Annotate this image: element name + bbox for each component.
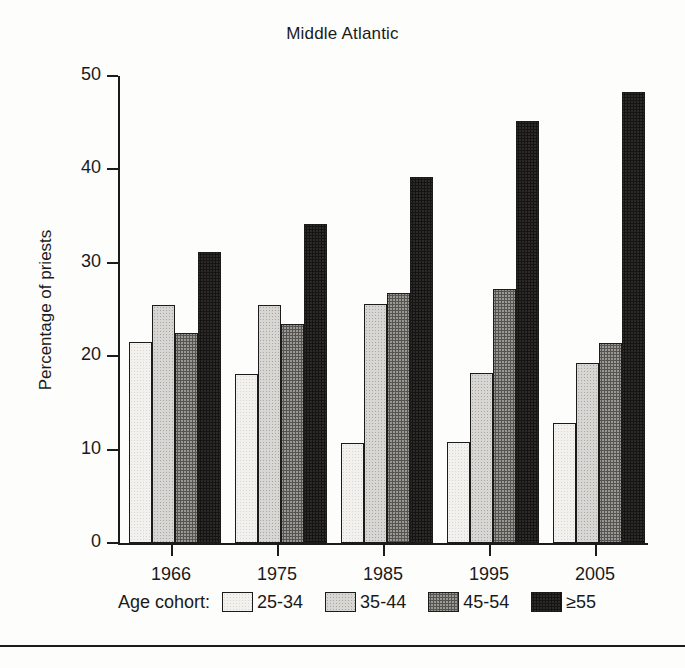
bar-1995-35-44: [470, 373, 493, 543]
x-tick-label-1995: 1995: [469, 564, 509, 585]
bar-1985-25-34: [341, 443, 364, 543]
x-tick-label-2005: 2005: [575, 564, 615, 585]
bar-1966-45-54: [175, 333, 198, 543]
y-tick-40: 40: [107, 168, 118, 170]
y-tick-label: 10: [81, 438, 101, 459]
y-tick-30: 30: [107, 262, 118, 264]
bar-2005-35-44: [576, 363, 599, 543]
legend-title: Age cohort:: [118, 592, 210, 613]
bar-1966-35-44: [152, 305, 175, 543]
legend-label: 45-54: [463, 592, 509, 613]
legend-item-25-34: 25-34: [222, 592, 303, 613]
x-tick-label-1975: 1975: [257, 564, 297, 585]
bottom-divider: [0, 645, 685, 647]
x-tick-1966: [171, 543, 173, 556]
legend-item-45-54: 45-54: [428, 592, 509, 613]
y-tick-10: 10: [107, 449, 118, 451]
bar-1966-≥55: [198, 252, 221, 543]
bar-2005-25-34: [553, 423, 576, 543]
x-tick-1975: [277, 543, 279, 556]
legend-items: 25-3435-4445-54≥55: [222, 592, 618, 613]
bar-1995-≥55: [516, 121, 539, 543]
bar-1995-45-54: [493, 289, 516, 543]
plot-area: 01020304050 19661975198519952005: [118, 76, 648, 543]
legend-label: 25-34: [257, 592, 303, 613]
bar-1975-45-54: [281, 324, 304, 543]
chart-figure: Middle Atlantic Percentage of priests 01…: [0, 0, 685, 668]
bar-1985-35-44: [364, 304, 387, 543]
y-tick-label: 0: [91, 531, 101, 552]
bar-2005-45-54: [599, 343, 622, 543]
y-tick-label: 50: [81, 64, 101, 85]
y-axis-line: [118, 76, 120, 544]
bar-1985-≥55: [410, 177, 433, 543]
legend-label: 35-44: [360, 592, 406, 613]
bar-1975-35-44: [258, 305, 281, 543]
bar-1985-45-54: [387, 293, 410, 543]
legend-swatch-icon: [531, 592, 562, 612]
y-tick-label: 30: [81, 251, 101, 272]
x-tick-label-1966: 1966: [151, 564, 191, 585]
x-tick-1985: [383, 543, 385, 556]
legend-item-35-44: 35-44: [325, 592, 406, 613]
bar-2005-≥55: [622, 92, 645, 543]
legend-swatch-icon: [222, 592, 253, 612]
y-axis-label: Percentage of priests: [36, 160, 56, 460]
bar-1975-≥55: [304, 224, 327, 543]
legend-swatch-icon: [325, 592, 356, 612]
legend-item-≥55: ≥55: [531, 592, 596, 613]
bar-1995-25-34: [447, 442, 470, 543]
legend-label: ≥55: [566, 592, 596, 613]
y-tick-20: 20: [107, 355, 118, 357]
bar-1975-25-34: [235, 374, 258, 543]
chart-title: Middle Atlantic: [0, 24, 685, 44]
y-tick-label: 40: [81, 157, 101, 178]
x-tick-label-1985: 1985: [363, 564, 403, 585]
y-tick-label: 20: [81, 344, 101, 365]
y-tick-0: 0: [107, 542, 118, 544]
y-tick-50: 50: [107, 75, 118, 77]
x-tick-2005: [595, 543, 597, 556]
chart-legend: Age cohort: 25-3435-4445-54≥55: [118, 589, 648, 615]
x-tick-1995: [489, 543, 491, 556]
bar-1966-25-34: [129, 342, 152, 543]
legend-swatch-icon: [428, 592, 459, 612]
